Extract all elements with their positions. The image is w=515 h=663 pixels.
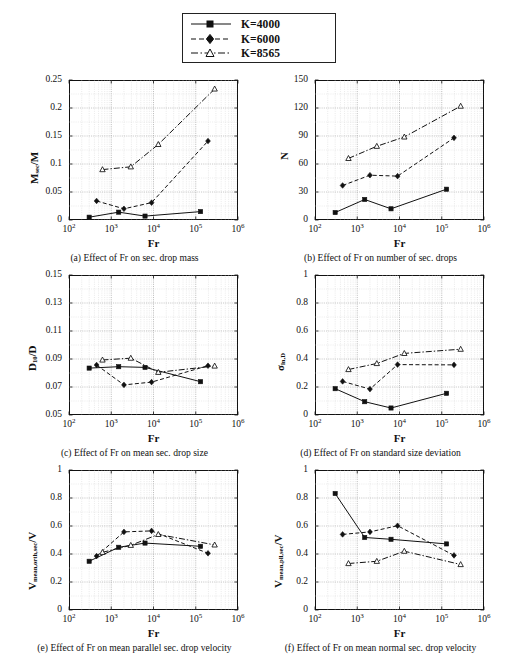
panel-b-xtick: 102 [300,222,330,234]
panel-d-caption: (d) Effect of Fr on standard size deviat… [258,447,503,458]
panel-e: Vmean,orth,sec/V Fr (e) Effect of Fr on … [12,462,257,657]
panel-a-ytick: 0.1 [18,158,62,168]
panel-d-plot [315,275,484,415]
panel-d-xtick: 105 [427,417,457,429]
panel-a-svg [69,80,238,220]
panel-a-ytick: 0.05 [18,186,62,196]
panel-d-xtick: 103 [342,417,372,429]
panel-b-ytick: 60 [264,158,308,168]
panel-b-xtick: 106 [469,222,499,234]
panel-d-xtick: 104 [385,417,415,429]
panel-e-xtick: 105 [181,612,211,624]
panel-d-ytick: 0.8 [264,297,308,307]
panel-b-ytick: 120 [264,102,308,112]
panel-c-ytick: 0.09 [18,353,62,363]
panel-f-xtick: 106 [469,612,499,624]
panel-e-ytick: 0.4 [18,548,62,558]
panel-a-xtick: 106 [223,222,253,234]
panel-a: Msec/M Fr (a) Effect of Fr on sec. drop … [12,72,257,267]
panel-f-ytick: 0.8 [264,492,308,502]
panel-c-ytick: 0.07 [18,381,62,391]
panel-c-ytick: 0.13 [18,297,62,307]
legend-item-2: K=8565 [189,46,329,61]
panel-c-xlabel: Fr [69,432,238,444]
legend-label-k6000: K=6000 [241,33,280,45]
panel-b-plot [315,80,484,220]
legend: K=4000 K=6000 K=8565 [182,13,336,63]
panel-c-xtick: 102 [54,417,84,429]
panel-e-caption: (e) Effect of Fr on mean parallel sec. d… [12,642,257,653]
panel-c-xtick: 103 [96,417,126,429]
panel-a-ytick: 0.25 [18,74,62,84]
figure-root: K=4000 K=6000 K=8565 Msec/M [0,0,515,663]
panel-b-xtick: 105 [427,222,457,234]
panel-d-ytick: 1 [264,269,308,279]
panel-b-ytick: 150 [264,74,308,84]
panel-b-xlabel: Fr [315,237,484,249]
panel-a-ytick: 0.2 [18,102,62,112]
panel-a-xtick: 104 [139,222,169,234]
legend-swatch-k6000 [189,32,233,46]
panel-a-xlabel: Fr [69,237,238,249]
panel-f-plot [315,470,484,610]
panel-f-xtick: 103 [342,612,372,624]
legend-swatch-k8565 [189,46,233,60]
panel-a-plot [69,80,238,220]
panel-d-ytick: 0.4 [264,353,308,363]
panel-b-xtick: 103 [342,222,372,234]
panel-f-ytick: 1 [264,464,308,474]
panel-a-ytick: 0.15 [18,130,62,140]
panel-b: N Fr (b) Effect of Fr on number of sec. … [258,72,503,267]
panel-e-xtick: 104 [139,612,169,624]
panel-f-caption: (f) Effect of Fr on mean normal sec. dro… [258,642,503,653]
panel-a-xtick: 102 [54,222,84,234]
legend-item-0: K=4000 [189,17,329,32]
panel-d-ytick: 0.6 [264,325,308,335]
panel-e-ytick: 0.6 [18,520,62,530]
panel-e-ytick: 1 [18,464,62,474]
panel-b-svg [315,80,484,220]
panel-f-ytick: 0.6 [264,520,308,530]
panel-e-svg [69,470,238,610]
panel-f-ytick: 0.4 [264,548,308,558]
panel-d-svg [315,275,484,415]
panel-d-xtick: 106 [469,417,499,429]
panel-f-xtick: 105 [427,612,457,624]
panel-e-xtick: 103 [96,612,126,624]
panel-e-plot [69,470,238,610]
panel-c-svg [69,275,238,415]
legend-swatch-k4000 [189,17,233,31]
panel-f-ytick: 0.2 [264,576,308,586]
panel-e-xlabel: Fr [69,627,238,639]
panel-f-xlabel: Fr [315,627,484,639]
panel-d-xtick: 102 [300,417,330,429]
panel-f-svg [315,470,484,610]
panel-b-ytick: 90 [264,130,308,140]
panel-e-ytick: 0.8 [18,492,62,502]
panel-d: σln,D Fr (d) Effect of Fr on standard si… [258,267,503,462]
panel-e-xtick: 106 [223,612,253,624]
legend-label-k4000: K=4000 [241,18,280,30]
panel-c-xtick: 105 [181,417,211,429]
panel-c-plot [69,275,238,415]
panel-a-xtick: 105 [181,222,211,234]
panel-b-caption: (b) Effect of Fr on number of sec. drops [258,252,503,263]
legend-label-k8565: K=8565 [241,47,280,59]
panel-c-ytick: 0.15 [18,269,62,279]
panel-f-xtick: 104 [385,612,415,624]
panel-c-xtick: 104 [139,417,169,429]
panel-a-xtick: 103 [96,222,126,234]
panel-a-caption: (a) Effect of Fr on sec. drop mass [12,252,257,263]
panel-d-xlabel: Fr [315,432,484,444]
panel-b-xtick: 104 [385,222,415,234]
panel-c: D10/D Fr (c) Effect of Fr on mean sec. d… [12,267,257,462]
panel-e-xtick: 102 [54,612,84,624]
panel-e-ytick: 0.2 [18,576,62,586]
legend-item-1: K=6000 [189,32,329,47]
panel-f-xtick: 102 [300,612,330,624]
panel-c-ytick: 0.11 [18,325,62,335]
panel-f: Vmean,pll,sec/V Fr (f) Effect of Fr on m… [258,462,503,657]
panel-c-xtick: 106 [223,417,253,429]
panel-b-ytick: 30 [264,186,308,196]
panel-c-caption: (c) Effect of Fr on mean sec. drop size [12,447,257,458]
